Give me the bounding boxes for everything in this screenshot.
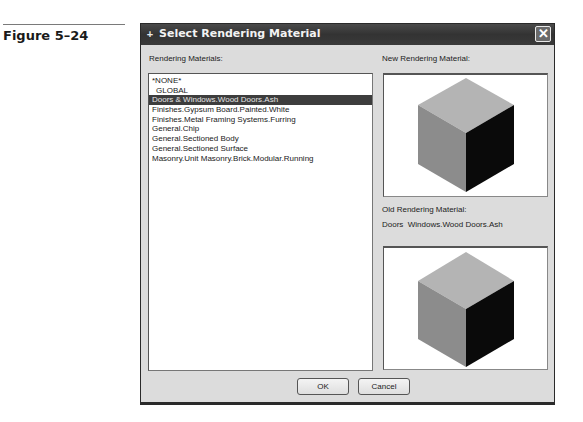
new-material-label: New Rendering Material:	[382, 54, 470, 63]
old-material-label: Old Rendering Material:	[382, 205, 466, 214]
list-item[interactable]: General.Chip	[149, 124, 372, 134]
list-item[interactable]: *NONE*	[149, 76, 372, 86]
rendering-materials-label: Rendering Materials:	[149, 54, 223, 63]
cancel-button[interactable]: Cancel	[358, 378, 410, 395]
list-item-selected[interactable]: Doors & Windows.Wood Doors.Ash	[149, 95, 372, 105]
rendering-materials-list[interactable]: *NONE* GLOBAL Doors & Windows.Wood Doors…	[148, 73, 373, 371]
close-icon: ✕	[538, 26, 549, 41]
title-bar[interactable]: + Select Rendering Material ✕	[141, 24, 554, 45]
figure-label: Figure 5–24	[3, 28, 88, 43]
cube-preview-icon	[384, 75, 547, 197]
select-rendering-material-dialog: + Select Rendering Material ✕ Rendering …	[140, 23, 555, 405]
cube-preview-icon	[384, 248, 547, 370]
dialog-title: Select Rendering Material	[159, 27, 321, 40]
close-button[interactable]: ✕	[535, 26, 551, 42]
new-material-preview	[383, 73, 548, 197]
list-item[interactable]: General.Sectioned Surface	[149, 144, 372, 154]
list-item[interactable]: GLOBAL	[149, 86, 372, 96]
ok-button[interactable]: OK	[297, 378, 349, 395]
app-icon: +	[145, 29, 155, 39]
old-material-value: Doors Windows.Wood Doors.Ash	[382, 220, 503, 229]
figure-rule	[3, 24, 125, 25]
list-item[interactable]: Finishes.Gypsum Board.Painted.White	[149, 105, 372, 115]
list-item[interactable]: Finishes.Metal Framing Systems.Furring	[149, 115, 372, 125]
list-item[interactable]: Masonry.Unit Masonry.Brick.Modular.Runni…	[149, 154, 372, 164]
list-item[interactable]: General.Sectioned Body	[149, 134, 372, 144]
old-material-preview	[383, 246, 548, 370]
